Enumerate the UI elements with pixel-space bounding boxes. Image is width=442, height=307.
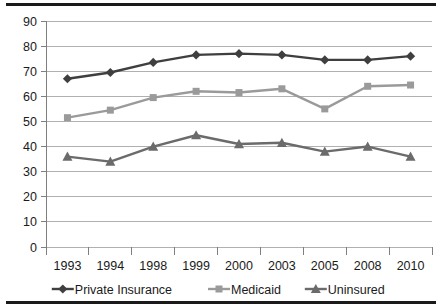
legend-label: Medicaid [231, 283, 281, 297]
data-point-marker [193, 88, 200, 95]
legend-item-medicaid[interactable]: Medicaid [208, 283, 281, 297]
y-tick-label: 70 [23, 65, 37, 79]
y-tick-label: 0 [30, 241, 37, 255]
data-point-marker [363, 55, 372, 64]
data-point-marker [149, 58, 158, 67]
line-chart-svg: 0102030405060708090 19931994199819992000… [0, 8, 442, 300]
data-point-marker [63, 74, 72, 83]
top-divider-rule [6, 3, 436, 6]
data-point-marker [321, 105, 328, 112]
data-point-marker [150, 94, 157, 101]
chart-figure: 0102030405060708090 19931994199819992000… [0, 0, 442, 307]
y-tick-label: 40 [23, 140, 37, 154]
y-tick-label: 30 [23, 165, 37, 179]
data-point-marker [320, 55, 329, 64]
data-point-marker [64, 114, 71, 121]
y-tick-label: 60 [23, 90, 37, 104]
y-tick-label: 50 [23, 115, 37, 129]
data-point-marker [107, 107, 114, 114]
legend-item-uninsured[interactable]: Uninsured [305, 283, 385, 297]
legend-label: Uninsured [328, 283, 385, 297]
data-point-marker [58, 284, 67, 293]
y-tick-label: 20 [23, 190, 37, 204]
x-tick-label: 1994 [96, 259, 124, 273]
data-point-marker [406, 52, 415, 61]
x-tick-label: 1999 [182, 259, 210, 273]
x-tick-label: 2003 [268, 259, 296, 273]
x-tick-label: 1998 [139, 259, 167, 273]
x-tick-label: 2010 [397, 259, 425, 273]
y-axis-group: 0102030405060708090 [23, 15, 46, 256]
data-point-marker [106, 68, 115, 77]
data-point-marker [236, 89, 243, 96]
data-point-marker [278, 85, 285, 92]
series-private-insurance [63, 49, 415, 83]
legend-label: Private Insurance [75, 283, 172, 297]
data-point-marker [234, 49, 243, 58]
x-tick-label: 1993 [54, 259, 82, 273]
series-uninsured [62, 130, 415, 165]
data-point-marker [216, 286, 223, 293]
y-tick-label: 80 [23, 40, 37, 54]
x-axis-group: 199319941998199920002003200520082010 [46, 247, 432, 273]
chart-legend: Private InsuranceMedicaidUninsured [52, 283, 385, 297]
bottom-divider-rule [6, 301, 436, 304]
x-tick-label: 2000 [225, 259, 253, 273]
y-tick-label: 90 [23, 15, 37, 29]
y-tick-label: 10 [23, 215, 37, 229]
series-medicaid [64, 82, 414, 122]
data-point-marker [192, 50, 201, 59]
data-point-marker [407, 82, 414, 89]
data-point-marker [277, 50, 286, 59]
data-series-group [62, 49, 415, 166]
data-point-marker [364, 83, 371, 90]
legend-item-private-insurance[interactable]: Private Insurance [52, 283, 172, 297]
x-tick-label: 2008 [354, 259, 382, 273]
plot-area-container: 0102030405060708090 19931994199819992000… [0, 8, 442, 300]
x-tick-label: 2005 [311, 259, 339, 273]
